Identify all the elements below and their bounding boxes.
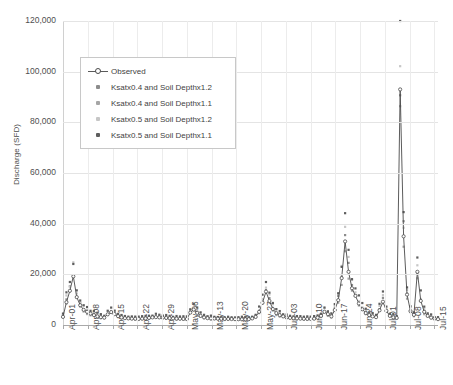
x-gridline <box>286 21 287 325</box>
legend-dot-icon <box>87 117 109 121</box>
legend-item[interactable]: Ksatx0.5 and Soil Depthx1.1 <box>87 127 229 143</box>
x-tick-mark <box>261 325 262 329</box>
x-tick-mark <box>113 325 114 329</box>
x-tick-mark <box>63 325 64 329</box>
x-tick-mark <box>311 325 312 329</box>
x-tick-mark <box>410 325 411 329</box>
legend-dot-swatch <box>96 133 100 137</box>
legend-item[interactable]: Observed <box>87 63 229 79</box>
y-gridline <box>63 173 438 174</box>
y-tick-label: 20,000 <box>4 268 56 278</box>
x-tick-mark <box>212 325 213 329</box>
legend-item[interactable]: Ksatx0.5 and Soil Depthx1.2 <box>87 111 229 127</box>
legend-item-label: Ksatx0.4 and Soil Depthx1.1 <box>109 99 212 108</box>
x-tick-mark <box>162 325 163 329</box>
x-gridline <box>236 21 237 325</box>
legend-item-label: Ksatx0.5 and Soil Depthx1.1 <box>109 131 212 140</box>
x-gridline <box>385 21 386 325</box>
legend-line-marker-icon <box>87 68 109 74</box>
y-tick-label: 0 <box>4 319 56 329</box>
legend-dot-icon <box>87 85 109 89</box>
legend-dot-icon <box>87 133 109 137</box>
x-tick-mark <box>335 325 336 329</box>
x-gridline <box>261 21 262 325</box>
legend-dot-swatch <box>96 101 100 105</box>
x-tick-mark <box>286 325 287 329</box>
legend-item[interactable]: Ksatx0.4 and Soil Depthx1.1 <box>87 95 229 111</box>
y-gridline <box>63 224 438 225</box>
chart-legend: ObservedKsatx0.4 and Soil Depthx1.2Ksatx… <box>80 57 236 149</box>
x-gridline <box>434 21 435 325</box>
x-gridline <box>311 21 312 325</box>
y-tick-label: 80,000 <box>4 116 56 126</box>
y-gridline <box>63 21 438 22</box>
x-tick-mark <box>385 325 386 329</box>
x-gridline <box>360 21 361 325</box>
discharge-chart: Discharge (SFD) 020,00040,00060,00080,00… <box>0 0 453 385</box>
x-tick-mark <box>434 325 435 329</box>
legend-dot-icon <box>87 101 109 105</box>
x-tick-mark <box>187 325 188 329</box>
x-tick-mark <box>88 325 89 329</box>
y-tick-label: 40,000 <box>4 218 56 228</box>
x-gridline <box>335 21 336 325</box>
legend-item[interactable]: Ksatx0.4 and Soil Depthx1.2 <box>87 79 229 95</box>
x-tick-mark <box>236 325 237 329</box>
y-tick-label: 100,000 <box>4 66 56 76</box>
legend-circle-icon <box>95 68 101 74</box>
y-gridline <box>63 274 438 275</box>
legend-item-label: Observed <box>109 67 146 76</box>
legend-dot-swatch <box>96 117 100 121</box>
y-tick-label: 60,000 <box>4 167 56 177</box>
y-tick-label: 120,000 <box>4 15 56 25</box>
legend-dot-swatch <box>96 85 100 89</box>
x-tick-mark <box>360 325 361 329</box>
x-tick-mark <box>137 325 138 329</box>
legend-item-label: Ksatx0.4 and Soil Depthx1.2 <box>109 83 212 92</box>
legend-item-label: Ksatx0.5 and Soil Depthx1.2 <box>109 115 212 124</box>
x-gridline <box>410 21 411 325</box>
